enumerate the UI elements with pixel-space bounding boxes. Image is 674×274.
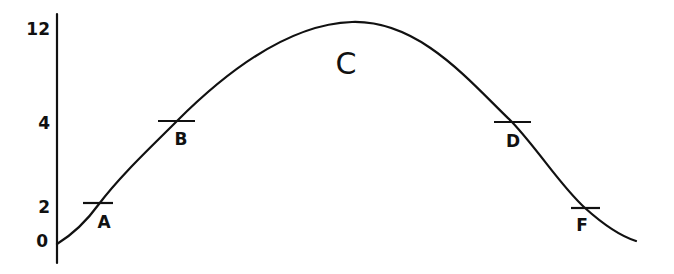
point-label-b: B xyxy=(175,131,188,148)
point-label-a: A xyxy=(97,214,110,231)
bell-curve-chart xyxy=(0,0,674,274)
point-label-f: F xyxy=(576,217,588,234)
y-tick-label-2: 2 xyxy=(20,199,50,216)
point-label-d: D xyxy=(506,133,520,150)
y-tick-label-4: 4 xyxy=(20,115,50,132)
y-tick-label-12: 12 xyxy=(20,21,50,38)
point-label-c: C xyxy=(336,49,357,79)
y-tick-label-0: 0 xyxy=(18,233,48,250)
